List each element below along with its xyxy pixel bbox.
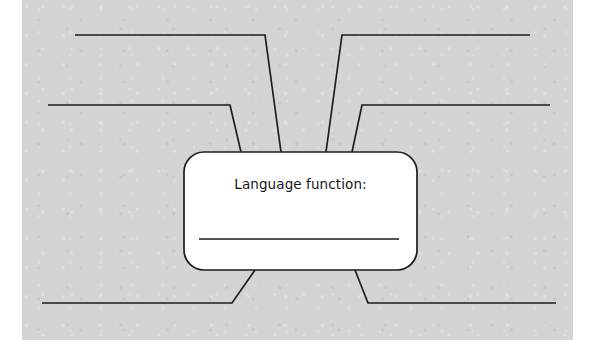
connector-top-right-inner[interactable] — [352, 105, 550, 152]
worksheet-diagram: Language function: — [0, 0, 603, 353]
center-box[interactable] — [184, 152, 417, 270]
connector-top-left-inner[interactable] — [48, 105, 241, 152]
center-box-label: Language function: — [184, 176, 417, 192]
connector-bottom-left[interactable] — [42, 270, 255, 303]
connector-top-left-outer[interactable] — [75, 35, 281, 152]
connector-bottom-right[interactable] — [355, 270, 556, 303]
